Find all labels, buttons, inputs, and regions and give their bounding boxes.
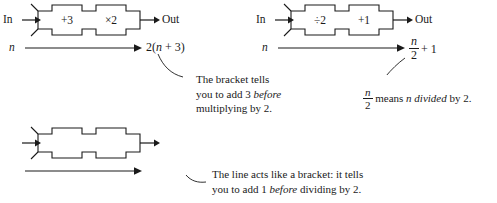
annotation-bracket-multiply: The bracket tells you to add 3 before mu…	[196, 72, 301, 116]
machine-top-right-flow-variable: n	[262, 42, 268, 54]
machine-top-right-output-label: Out	[415, 14, 432, 26]
machine-top-right-graphic	[253, 0, 497, 75]
annotation-text: means n divided by 2.	[373, 92, 472, 104]
machine-top-right-operation-1: ÷2	[306, 15, 334, 27]
fraction-denominator: 2	[363, 99, 373, 111]
fraction-numerator: n	[409, 35, 419, 49]
machine-top-right-operation-2: +1	[350, 15, 378, 27]
annotation-fraction-meaning: n2 means n divided by 2.	[363, 87, 497, 113]
function-machine-top-right: In Out ÷2 +1 n n2+ 1	[253, 0, 497, 75]
function-machine-top-left: In Out +3 ×2 n 2(n + 3)	[0, 0, 250, 70]
annotation-line: multiplying by 2.	[196, 101, 301, 116]
machine-top-left-operation-2: ×2	[97, 15, 125, 27]
machine-top-left-graphic	[0, 0, 250, 70]
fraction-n-over-2: n2	[409, 35, 419, 63]
machine-top-left-flow-variable: n	[9, 42, 15, 54]
machine-top-left-output-label: Out	[162, 14, 179, 26]
machine-top-right-result-trailing: + 1	[419, 42, 437, 56]
machine-top-left-input-label: In	[3, 14, 13, 26]
machine-top-right-input-label: In	[256, 14, 266, 26]
fraction-denominator: 2	[409, 49, 419, 62]
annotation-line: The line acts like a bracket: it tells	[212, 167, 487, 182]
annotation-line: you to add 1 before dividing by 2.	[212, 182, 487, 197]
fraction-n-over-2-inline: n2	[363, 86, 373, 112]
diagram-canvas: In Out +3 ×2 n 2(n + 3) In Out ÷2 +1 n n…	[0, 0, 497, 203]
fraction-numerator: n	[363, 86, 373, 99]
annotation-line-bracket: The line acts like a bracket: it tells y…	[212, 167, 487, 196]
annotation-line: The bracket tells	[196, 72, 301, 87]
leader-line-bracket-multiply	[155, 52, 200, 82]
machine-top-left-operation-1: +3	[53, 15, 81, 27]
annotation-line: you to add 3 before	[196, 87, 301, 102]
machine-top-right-result: n2+ 1	[409, 36, 437, 64]
